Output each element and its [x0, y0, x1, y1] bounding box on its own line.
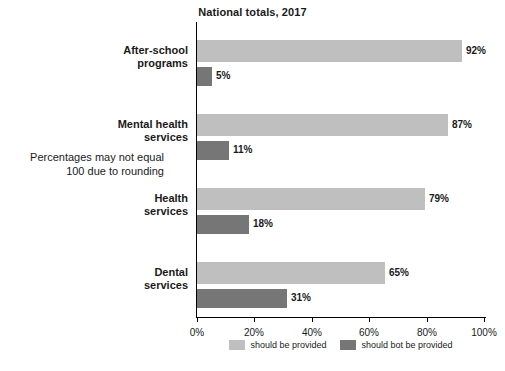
legend-item-should-not-be-provided: should bot be provided	[340, 340, 452, 350]
category-label-3: Dental services	[58, 266, 188, 292]
category-label-2: Health services	[58, 192, 188, 218]
bar-should-be-provided-1	[197, 114, 448, 136]
legend-label-should-be-provided: should be provided	[250, 340, 326, 350]
x-tick-4	[427, 318, 428, 322]
category-label-0-line-1: programs	[58, 57, 188, 70]
x-tick-1	[254, 318, 255, 322]
x-tick-label-0: 0%	[190, 327, 204, 338]
bar-value-should-not-be-provided-0: 5%	[216, 70, 230, 81]
category-label-1-line-0: Mental health	[58, 118, 188, 131]
bar-value-should-be-provided-2: 79%	[429, 193, 449, 204]
bar-value-should-not-be-provided-3: 31%	[291, 292, 311, 303]
bar-value-should-be-provided-0: 92%	[466, 45, 486, 56]
legend-item-should-be-provided: should be provided	[229, 340, 326, 350]
legend: should be provided should bot be provide…	[196, 340, 486, 350]
category-label-2-line-1: services	[58, 205, 188, 218]
x-tick-label-2: 40%	[302, 327, 322, 338]
x-tick-0	[197, 318, 198, 322]
bar-should-be-provided-3	[197, 262, 385, 284]
category-label-0: After-school programs	[58, 44, 188, 70]
x-tick-label-5: 100%	[471, 327, 497, 338]
bar-value-should-not-be-provided-1: 11%	[233, 144, 252, 155]
chart-page: National totals, 2017 Percentages may no…	[0, 0, 505, 371]
bar-should-be-provided-2	[197, 188, 425, 210]
chart-title: National totals, 2017	[0, 6, 505, 18]
legend-swatch-dark-icon	[340, 340, 356, 350]
bar-value-should-be-provided-3: 65%	[389, 267, 409, 278]
rounding-note: Percentages may not equal 100 due to rou…	[14, 150, 164, 178]
x-tick-5	[484, 318, 485, 322]
category-label-3-line-1: services	[58, 279, 188, 292]
category-label-3-line-0: Dental	[58, 266, 188, 279]
bar-value-should-be-provided-1: 87%	[452, 119, 472, 130]
x-axis-line	[196, 317, 486, 318]
bar-should-not-be-provided-3	[197, 289, 287, 308]
x-tick-label-1: 20%	[244, 327, 264, 338]
category-label-1: Mental health services	[58, 118, 188, 144]
plot-area: 0% 20% 40% 60% 80% 100% After-school pro…	[196, 22, 486, 318]
x-tick-2	[312, 318, 313, 322]
category-label-2-line-0: Health	[58, 192, 188, 205]
x-tick-label-3: 60%	[359, 327, 379, 338]
bar-should-not-be-provided-1	[197, 141, 229, 160]
bar-value-should-not-be-provided-2: 18%	[253, 218, 273, 229]
category-label-1-line-1: services	[58, 131, 188, 144]
bar-should-not-be-provided-2	[197, 215, 249, 234]
x-tick-3	[369, 318, 370, 322]
category-label-0-line-0: After-school	[58, 44, 188, 57]
bar-should-not-be-provided-0	[197, 67, 212, 86]
legend-label-should-not-be-provided: should bot be provided	[361, 340, 452, 350]
bar-should-be-provided-0	[197, 40, 462, 62]
x-tick-label-4: 80%	[417, 327, 437, 338]
legend-swatch-light-icon	[229, 340, 245, 350]
